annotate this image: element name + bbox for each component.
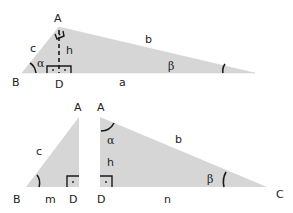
angle-label-alpha: α <box>107 134 115 147</box>
bottom-right-triangle: A D C α h b β n <box>97 101 284 206</box>
triangle-diagram: A B D c h b a α β A B D c m A D C α h b … <box>0 0 293 213</box>
vertex-label-c: C <box>276 188 284 201</box>
right-angle-dot-a <box>59 34 61 36</box>
vertex-label-d: D <box>97 193 105 206</box>
right-angle-dot-d-right <box>64 69 66 71</box>
side-label-h: h <box>107 156 114 169</box>
side-label-a: a <box>119 76 126 89</box>
bottom-left-triangle: A B D c m <box>13 101 82 206</box>
vertex-label-a: A <box>97 101 105 114</box>
side-label-c: c <box>30 42 36 55</box>
angle-label-beta: β <box>207 173 213 186</box>
triangle-adc <box>100 117 267 187</box>
right-angle-dot <box>105 181 107 183</box>
angle-label-alpha: α <box>37 57 45 70</box>
vertex-label-b: B <box>13 193 21 206</box>
vertex-label-a: A <box>54 12 62 25</box>
side-label-m: m <box>45 193 56 206</box>
angle-label-beta: β <box>168 60 174 73</box>
side-label-b: b <box>145 33 152 46</box>
side-label-n: n <box>164 193 171 206</box>
vertex-label-d: D <box>55 78 63 91</box>
vertex-label-b: B <box>12 76 20 89</box>
side-label-h: h <box>66 44 73 57</box>
side-label-c: c <box>36 145 42 158</box>
vertex-label-d: D <box>69 193 77 206</box>
right-angle-dot <box>72 181 74 183</box>
right-angle-dot-d-left <box>52 69 54 71</box>
vertex-label-a: A <box>74 101 82 114</box>
top-triangle: A B D c h b a α β <box>12 12 255 91</box>
side-label-b: b <box>175 133 182 146</box>
